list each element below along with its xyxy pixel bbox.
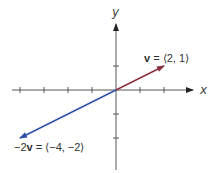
- vector-neg2v-label-value: = ⟨−4, −2⟩: [33, 141, 85, 153]
- vector-neg2v-label-prefix: −2: [14, 141, 27, 153]
- vector-v-arrow: [116, 66, 164, 90]
- x-axis-label: x: [199, 83, 208, 97]
- y-axis-label: y: [111, 5, 120, 19]
- vector-neg2v-label: −2v = ⟨−4, −2⟩: [14, 141, 84, 153]
- vector-neg2v-arrow: [20, 90, 116, 138]
- vector-v-label: v = ⟨2, 1⟩: [144, 52, 189, 64]
- vector-v-label-value: = ⟨2, 1⟩: [150, 52, 189, 64]
- vector-diagram: x y v = ⟨2, 1⟩ −2v = ⟨−4, −2⟩: [0, 0, 216, 173]
